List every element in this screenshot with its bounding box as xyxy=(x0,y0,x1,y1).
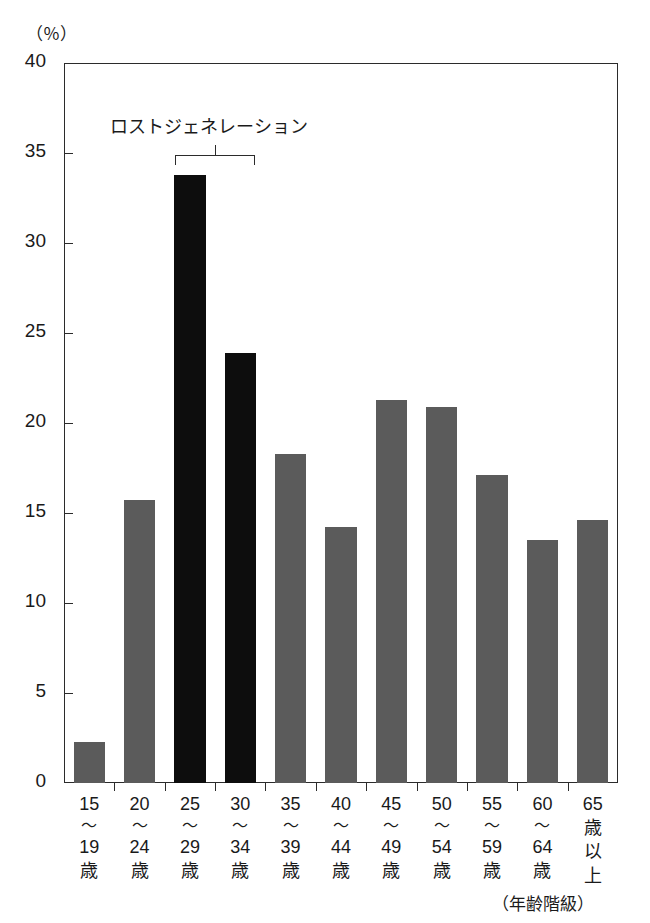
x-axis-tick-mark xyxy=(114,783,115,791)
x-axis-label-line: 24 xyxy=(114,835,164,859)
x-axis-label-line: 25 xyxy=(165,792,215,816)
chart-root: （％） 4035302520151050 15〜19歳20〜24歳25〜29歳3… xyxy=(0,0,650,923)
bar-45〜49歳 xyxy=(376,400,407,783)
x-axis-tick-mark xyxy=(265,783,266,791)
x-axis-label-line: 59 xyxy=(467,835,517,859)
bar-30〜34歳 xyxy=(225,353,256,783)
x-axis-label-line: 34 xyxy=(215,835,265,859)
x-axis-label-line: 〜 xyxy=(366,816,416,835)
x-axis-labels: 15〜19歳20〜24歳25〜29歳30〜34歳35〜39歳40〜44歳45〜4… xyxy=(64,792,618,902)
x-axis-label-line: 〜 xyxy=(64,816,114,835)
y-axis-tick-label: 5 xyxy=(35,680,46,702)
x-axis-label-25〜29歳: 25〜29歳 xyxy=(165,792,215,883)
bar-25〜29歳 xyxy=(174,175,205,783)
bar-15〜19歳 xyxy=(74,742,105,783)
x-axis-label-line: 55 xyxy=(467,792,517,816)
bar-35〜39歳 xyxy=(275,454,306,783)
x-axis-tick-mark xyxy=(366,783,367,791)
x-axis-label-line: 上 xyxy=(568,864,618,888)
y-axis-tick-label: 20 xyxy=(25,410,46,432)
x-axis-label-line: 歳 xyxy=(114,859,164,883)
y-axis-tick-label: 15 xyxy=(25,500,46,522)
x-axis-label-line: 〜 xyxy=(114,816,164,835)
x-axis-tick-mark xyxy=(215,783,216,791)
x-axis-label-line: 〜 xyxy=(265,816,315,835)
x-axis-label-line: 19 xyxy=(64,835,114,859)
bar-65歳以上 xyxy=(577,520,608,783)
x-axis-tick-mark xyxy=(417,783,418,791)
x-axis-label-line: 39 xyxy=(265,835,315,859)
x-axis-tick-mark xyxy=(165,783,166,791)
bar-60〜64歳 xyxy=(527,540,558,783)
bar-series xyxy=(64,63,618,783)
x-axis-label-line: 歳 xyxy=(517,859,567,883)
x-axis-label-line: 29 xyxy=(165,835,215,859)
y-axis-tick-label: 10 xyxy=(25,590,46,612)
x-axis-label-line: 歳 xyxy=(64,859,114,883)
y-axis-unit-label: （％） xyxy=(26,20,77,45)
x-axis-label-line: 15 xyxy=(64,792,114,816)
y-axis-tick-label: 25 xyxy=(25,320,46,342)
x-axis-label-line: 歳 xyxy=(467,859,517,883)
x-axis-label-line: 〜 xyxy=(165,816,215,835)
x-axis-label-line: 歳 xyxy=(417,859,467,883)
x-axis-label-line: 歳 xyxy=(165,859,215,883)
x-axis-label-55〜59歳: 55〜59歳 xyxy=(467,792,517,883)
x-axis-caption: （年齢階級） xyxy=(492,890,594,915)
x-axis-label-line: 歳 xyxy=(568,816,618,840)
x-axis-label-line: 50 xyxy=(417,792,467,816)
x-axis-label-35〜39歳: 35〜39歳 xyxy=(265,792,315,883)
x-axis-label-line: 歳 xyxy=(215,859,265,883)
bar-20〜24歳 xyxy=(124,500,155,783)
y-axis-tick-label: 30 xyxy=(25,230,46,252)
x-axis-label-line: 歳 xyxy=(265,859,315,883)
bar-40〜44歳 xyxy=(325,527,356,783)
bar-55〜59歳 xyxy=(476,475,507,783)
x-axis-label-line: 歳 xyxy=(366,859,416,883)
x-axis-label-line: 54 xyxy=(417,835,467,859)
x-axis-label-line: 35 xyxy=(265,792,315,816)
x-axis-label-line: 44 xyxy=(316,835,366,859)
x-axis-label-line: 65 xyxy=(568,792,618,816)
annotation-label: ロストジェネレーション xyxy=(110,112,308,138)
x-axis-label-30〜34歳: 30〜34歳 xyxy=(215,792,265,883)
x-axis-label-line: 歳 xyxy=(316,859,366,883)
x-axis-label-40〜44歳: 40〜44歳 xyxy=(316,792,366,883)
x-axis-label-50〜54歳: 50〜54歳 xyxy=(417,792,467,883)
x-axis-label-20〜24歳: 20〜24歳 xyxy=(114,792,164,883)
x-axis-label-45〜49歳: 45〜49歳 xyxy=(366,792,416,883)
x-axis-label-60〜64歳: 60〜64歳 xyxy=(517,792,567,883)
y-axis-tick-label: 40 xyxy=(25,50,46,72)
x-axis-label-line: 〜 xyxy=(215,816,265,835)
x-axis-label-line: 〜 xyxy=(316,816,366,835)
bar-50〜54歳 xyxy=(426,407,457,783)
x-axis-label-line: 以 xyxy=(568,840,618,864)
x-axis-label-line: 〜 xyxy=(417,816,467,835)
x-axis-label-line: 〜 xyxy=(467,816,517,835)
x-axis-tick-mark xyxy=(467,783,468,791)
annotation-bracket-stem-icon xyxy=(215,145,216,156)
x-axis-label-line: 64 xyxy=(517,835,567,859)
x-axis-label-65歳以上: 65歳以上 xyxy=(568,792,618,888)
x-axis-label-15〜19歳: 15〜19歳 xyxy=(64,792,114,883)
x-axis-tick-mark xyxy=(517,783,518,791)
y-axis-tick-label: 0 xyxy=(35,770,46,792)
x-axis-label-line: 49 xyxy=(366,835,416,859)
y-axis-tick-label: 35 xyxy=(25,140,46,162)
x-axis-tick-mark xyxy=(568,783,569,791)
x-axis-label-line: 45 xyxy=(366,792,416,816)
x-axis-label-line: 20 xyxy=(114,792,164,816)
x-axis-label-line: 30 xyxy=(215,792,265,816)
x-axis-label-line: 〜 xyxy=(517,816,567,835)
x-axis-tick-mark xyxy=(316,783,317,791)
x-axis-label-line: 60 xyxy=(517,792,567,816)
x-axis-label-line: 40 xyxy=(316,792,366,816)
annotation-bracket-icon xyxy=(175,155,256,165)
